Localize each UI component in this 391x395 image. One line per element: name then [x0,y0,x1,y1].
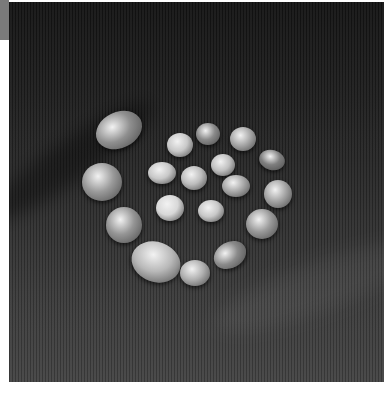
stone [196,123,220,145]
stone [106,207,142,243]
stone [198,200,224,222]
stone [257,147,287,173]
stone [180,260,210,286]
stone [181,166,207,190]
stone [246,209,278,239]
stone [264,180,292,208]
stone [167,133,193,157]
stone [222,175,250,197]
stone [156,195,184,221]
stone [148,162,176,184]
stones-photo [9,2,384,382]
stone [126,235,187,290]
fabric-fold [9,88,162,235]
stone [211,154,235,176]
stone [209,235,251,275]
stone [230,127,256,151]
gray-tab [0,0,9,40]
stone [82,163,122,201]
